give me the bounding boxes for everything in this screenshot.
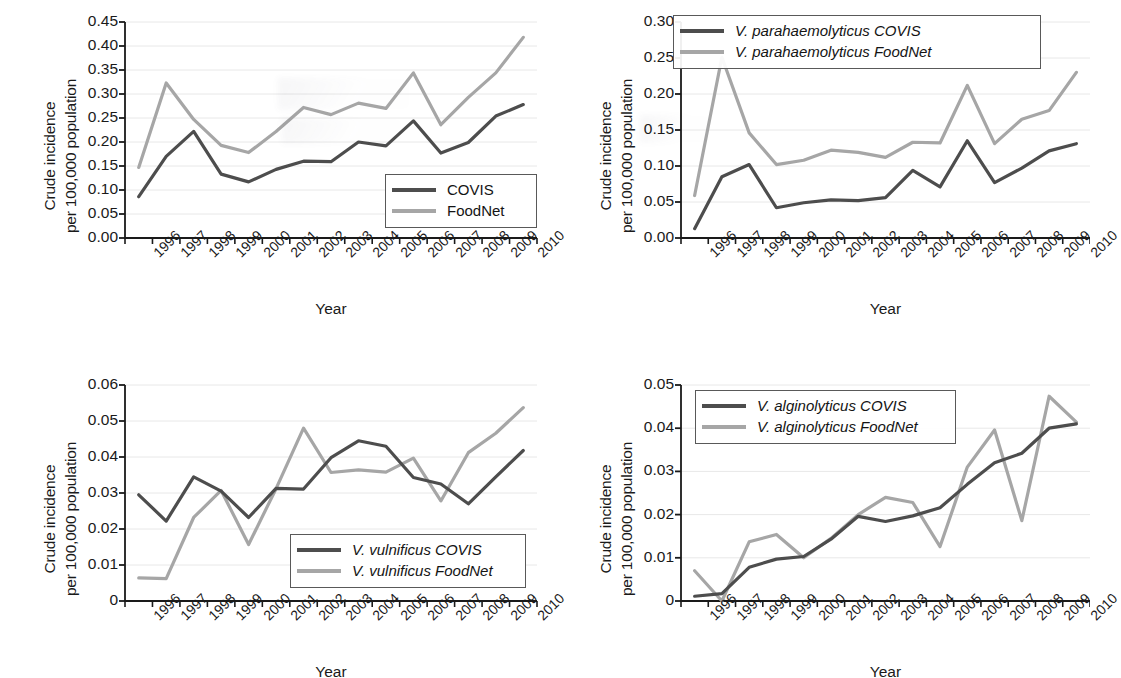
chart-panel-v-alginolyticus: 00.010.020.030.040.051996199719981999200… [545,339,1090,678]
y-axis-title-line2: per 100,000 population [618,36,644,276]
legend-item: COVIS [392,179,529,200]
chart-panel-v-vulnificus: 00.010.020.030.040.050.06199619971998199… [0,339,545,678]
chart-legend: V. vulnificus COVISV. vulnificus FoodNet [290,534,526,588]
y-axis-tick-label: 0.04 [88,447,118,465]
y-axis-tick-label: 0.35 [88,60,118,78]
x-axis-title: Year [125,663,537,678]
y-axis-tick-label: 0.20 [88,132,118,150]
chart-legend: V. alginolyticus COVISV. alginolyticus F… [695,390,956,444]
y-axis-tick-label: 0 [665,591,674,609]
chart-legend: V. parahaemolyticus COVISV. parahaemolyt… [673,15,1041,69]
y-axis-tick-label: 0.06 [88,375,118,393]
y-axis-title-line2: per 100,000 population [62,399,88,639]
legend-item: FoodNet [392,200,529,221]
legend-item: V. alginolyticus FoodNet [702,416,948,437]
chart-legend: COVISFoodNet [385,174,537,228]
legend-line-swatch-icon [297,569,341,573]
legend-label: COVIS [447,182,494,197]
y-axis-tick-label: 0.10 [88,180,118,198]
legend-label: V. alginolyticus COVIS [757,398,907,413]
y-axis-tick-label: 0.02 [644,505,674,523]
legend-label: FoodNet [447,203,505,218]
x-axis-title: Year [125,300,537,318]
y-axis-tick-label: 0.30 [644,12,674,30]
legend-line-swatch-icon [392,188,436,192]
legend-line-swatch-icon [297,548,341,552]
legend-item: V. vulnificus COVIS [297,539,518,560]
y-axis-tick-label: 0.05 [644,375,674,393]
chart-panel-v-parahaemolyticus: 0.000.050.100.150.200.250.30199619971998… [545,0,1090,339]
legend-line-swatch-icon [392,209,436,213]
y-axis-tick-label: 0.15 [88,156,118,174]
y-axis-tick-label: 0 [109,591,118,609]
y-axis-tick-label: 0.03 [644,461,674,479]
y-axis-tick-label: 0.04 [644,418,674,436]
legend-item: V. parahaemolyticus FoodNet [680,41,1033,62]
legend-item: V. alginolyticus COVIS [702,395,948,416]
series-line [139,37,524,167]
y-axis-tick-label: 0.05 [644,192,674,210]
series-line [695,141,1077,229]
series-line [695,57,1077,195]
legend-line-swatch-icon [702,425,746,429]
y-axis-tick-label: 0.05 [88,204,118,222]
chart-panel-total-vibrio: 0.000.050.100.150.200.250.300.350.400.45… [0,0,545,339]
y-axis-tick-label: 0.00 [88,228,118,246]
legend-item: V. vulnificus FoodNet [297,560,518,581]
y-axis-tick-label: 0.01 [88,555,118,573]
legend-item: V. parahaemolyticus COVIS [680,20,1033,41]
y-axis-tick-label: 0.15 [644,120,674,138]
x-axis-title: Year [681,300,1090,318]
y-axis-tick-label: 0.30 [88,84,118,102]
y-axis-tick-label: 0.02 [88,519,118,537]
y-axis-tick-label: 0.00 [644,228,674,246]
legend-label: V. parahaemolyticus COVIS [735,23,921,38]
series-line [139,441,524,521]
y-axis-tick-label: 0.25 [88,108,118,126]
y-axis-tick-label: 0.05 [88,411,118,429]
x-axis-title: Year [681,663,1090,678]
legend-label: V. parahaemolyticus FoodNet [735,44,932,59]
y-axis-title-line2: per 100,000 population [618,399,644,639]
legend-line-swatch-icon [680,50,724,54]
legend-label: V. vulnificus FoodNet [352,563,493,578]
legend-line-swatch-icon [680,29,724,33]
y-axis-title-line2: per 100,000 population [62,36,88,276]
y-axis-tick-label: 0.03 [88,483,118,501]
y-axis-tick-label: 0.40 [88,36,118,54]
y-axis-tick-label: 0.01 [644,548,674,566]
legend-line-swatch-icon [702,404,746,408]
legend-label: V. vulnificus COVIS [352,542,482,557]
y-axis-tick-label: 0.25 [644,48,674,66]
y-axis-tick-label: 0.20 [644,84,674,102]
y-axis-tick-label: 0.45 [88,12,118,30]
legend-label: V. alginolyticus FoodNet [757,419,918,434]
y-axis-tick-label: 0.10 [644,156,674,174]
